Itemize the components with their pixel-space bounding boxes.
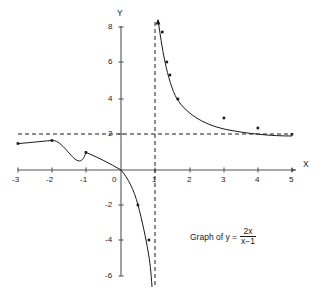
xtick-label-1: 1 [152, 176, 156, 184]
ytick-label-8: 8 [108, 23, 112, 31]
data-point [169, 74, 172, 77]
data-point [137, 204, 140, 207]
xtick-label--3: -3 [12, 176, 19, 184]
xtick-label--2: -2 [46, 176, 53, 184]
data-point [166, 61, 169, 64]
curve-left-branch [18, 140, 121, 170]
data-point [177, 98, 180, 101]
data-point [161, 31, 164, 34]
graph-figure: -3 -2 -1 0 1 2 3 4 5 8 6 4 2 -2 -4 -6 X … [0, 0, 324, 295]
xtick-label-4: 4 [255, 176, 259, 184]
right-branch-arrowhead [156, 19, 161, 25]
caption-fraction: 2x x−1 [240, 227, 256, 246]
caption-lead: Graph of y = [190, 233, 237, 242]
fraction-numerator: 2x [243, 227, 254, 236]
data-point [291, 133, 294, 136]
data-point [85, 151, 88, 154]
data-point [148, 239, 151, 242]
fraction-denominator: x−1 [240, 237, 256, 246]
data-point [257, 127, 260, 130]
xtick-label-3: 3 [221, 176, 225, 184]
plot-canvas [0, 0, 324, 295]
ytick-label--2: -2 [105, 201, 112, 209]
graph-caption: Graph of y = 2x x−1 [190, 228, 256, 247]
data-point [51, 139, 54, 142]
y-axis-label: Y [117, 9, 123, 18]
xtick-label--1: -1 [80, 176, 87, 184]
ytick-label--6: -6 [105, 272, 112, 280]
data-point [17, 142, 20, 145]
ytick-label-4: 4 [108, 95, 112, 103]
xtick-label-5: 5 [289, 176, 293, 184]
xtick-label-2: 2 [187, 176, 191, 184]
curve-lower-branch [121, 170, 152, 287]
ytick-label--4: -4 [105, 236, 112, 244]
data-point [223, 117, 226, 120]
ytick-label-2: 2 [108, 130, 112, 138]
x-axis-label: X [303, 160, 309, 169]
ytick-label-6: 6 [108, 58, 112, 66]
xtick-label-0: 0 [112, 176, 116, 184]
